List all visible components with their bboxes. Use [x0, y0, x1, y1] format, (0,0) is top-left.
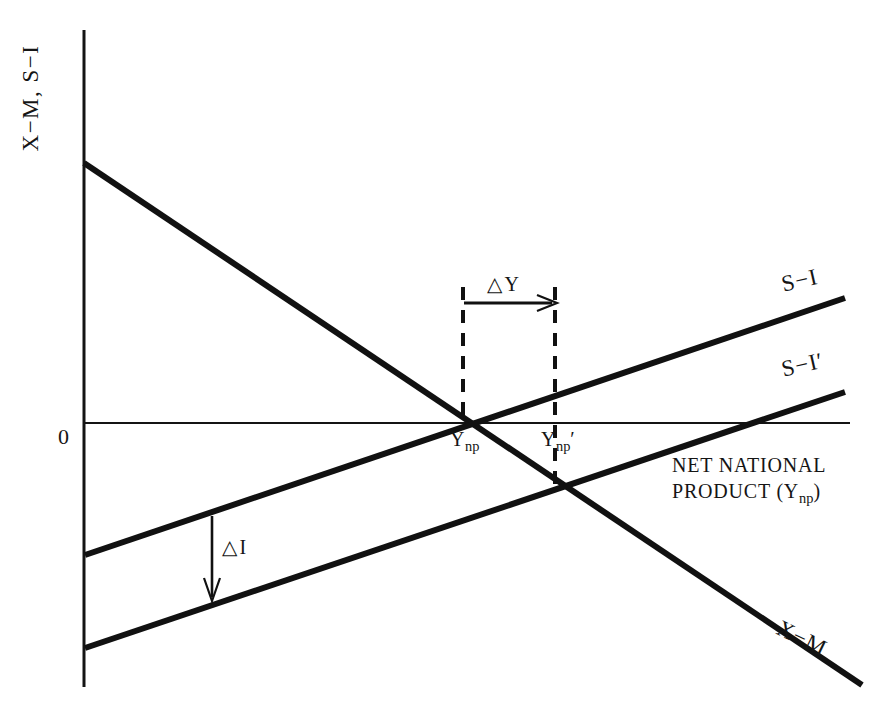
economics-diagram-figure: X−M, S−I 0 S−I S−I′ X−M Ynp Ynp′ △Y △I N… [0, 0, 880, 721]
x-axis-caption-line1: NET NATIONAL [672, 452, 826, 478]
ynp-prime-subscript: np [556, 438, 570, 454]
equilibrium-label-ynp-prime: Ynp′ [541, 428, 575, 455]
delta-y-label: △Y [487, 272, 521, 296]
delta-i-arrow [204, 516, 220, 601]
equilibrium-label-ynp: Ynp [450, 428, 479, 455]
ynp-prime-tail: ′ [570, 428, 575, 450]
diagram-canvas [0, 0, 880, 721]
delta-i-label: △I [222, 535, 248, 559]
x-axis-caption-line2-main: PRODUCT (Y [672, 480, 799, 502]
x-axis-caption-line2: PRODUCT (Ynp) [672, 478, 826, 511]
x-axis-caption-subscript: np [799, 490, 813, 506]
x-axis-caption: NET NATIONAL PRODUCT (Ynp) [672, 452, 826, 511]
ynp-subscript: np [465, 438, 479, 454]
y-axis-title: X−M, S−I [18, 23, 44, 173]
x-axis-caption-line2-tail: ) [813, 480, 820, 502]
ynp-main: Y [450, 428, 465, 450]
delta-y-arrow [464, 295, 557, 311]
ynp-prime-main: Y [541, 428, 556, 450]
origin-label: 0 [58, 424, 70, 450]
